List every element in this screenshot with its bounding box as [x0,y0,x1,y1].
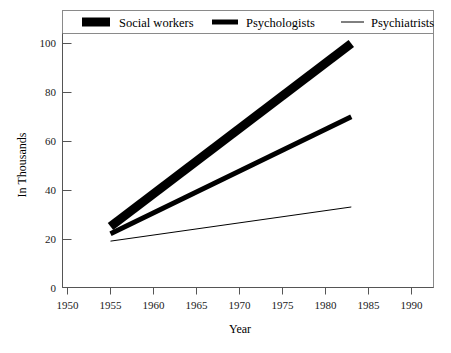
x-tick-label-1950: 1950 [57,299,80,311]
y-axis-title: In Thousands [15,132,29,197]
x-tick-label-1990: 1990 [401,299,424,311]
x-axis-labels: 1950 1955 1960 1965 1970 1975 1980 1985 … [57,299,424,311]
y-tick-label-20: 20 [45,233,57,245]
series-line-psychiatrists [111,207,352,241]
chart-container: Social workers Psychologists Psychiatris… [0,0,451,353]
series-layer [111,44,352,242]
legend-label-psychologists: Psychologists [246,16,315,30]
plot-frame [63,11,434,288]
legend-item-social-workers[interactable]: Social workers [82,16,194,30]
y-tick-label-100: 100 [40,37,57,49]
y-tick-label-40: 40 [45,184,57,196]
x-tick-label-1980: 1980 [315,299,338,311]
x-tick-label-1970: 1970 [229,299,252,311]
x-tick-label-1985: 1985 [358,299,381,311]
legend-item-psychiatrists[interactable]: Psychiatrists [341,16,434,30]
y-axis-ticks [63,44,72,240]
legend-label-psychiatrists: Psychiatrists [371,16,434,30]
x-tick-label-1955: 1955 [100,299,123,311]
x-axis-ticks [68,288,412,295]
x-tick-label-1960: 1960 [143,299,166,311]
x-tick-label-1965: 1965 [186,299,209,311]
legend-label-social-workers: Social workers [119,16,194,30]
x-tick-label-1975: 1975 [272,299,295,311]
chart-svg: Social workers Psychologists Psychiatris… [0,0,451,353]
legend-item-psychologists[interactable]: Psychologists [212,16,315,30]
x-axis-title: Year [229,322,251,336]
y-tick-label-0: 0 [51,282,57,294]
y-tick-label-60: 60 [45,135,57,147]
y-axis-labels: 100 80 60 40 20 0 [40,37,57,294]
y-tick-label-80: 80 [45,86,57,98]
legend: Social workers Psychologists Psychiatris… [82,16,434,30]
